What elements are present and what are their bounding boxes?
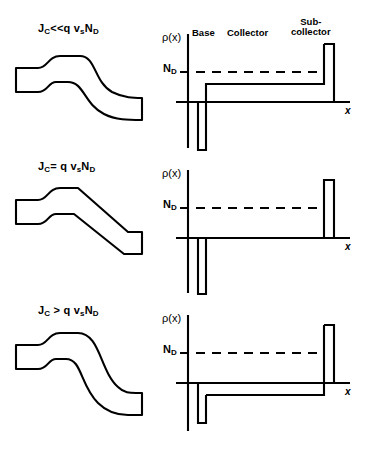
panel-case-equal: JC= q vsND ρ(x) ND x [0, 145, 368, 297]
condition-rhs-n-1: N [81, 160, 89, 172]
condition-rhs-n-0: N [85, 22, 93, 34]
condition-label-0: JC<<q vsND [38, 22, 99, 36]
condition-rhs-sub2-0: D [93, 27, 99, 36]
subcollector-spike-0 [324, 44, 334, 102]
collector-negative-plateau-2 [206, 325, 324, 395]
band-diagram-1 [8, 180, 158, 285]
condition-rhs-sub2-2: D [93, 309, 99, 318]
charge-profile-chart-2 [150, 311, 368, 447]
band-diagram-0 [8, 48, 158, 148]
condition-operator-1: = [50, 160, 57, 172]
condition-rhs-prefix-0: q v [64, 22, 81, 34]
condition-rhs-prefix-1: q v [60, 160, 77, 172]
charge-profile-chart-1 [150, 166, 368, 297]
condition-symbol-sub-2: C [44, 309, 50, 318]
subcollector-spike-2 [324, 325, 334, 383]
base-depletion-well-1 [198, 238, 206, 294]
panel-case-much-less-than: JC<<q vsND Base Collector Sub- collector… [0, 0, 368, 152]
panel-case-greater-than: JC > q vsND ρ(x) ND x [0, 290, 368, 442]
condition-operator-2: > [54, 304, 61, 316]
subcollector-spike-1 [324, 180, 334, 238]
condition-label-2: JC > q vsND [38, 304, 99, 318]
condition-rhs-n-2: N [85, 304, 93, 316]
charge-profile-chart-0 [150, 30, 368, 152]
condition-operator-0: << [50, 22, 63, 34]
condition-rhs-sub2-1: D [90, 165, 96, 174]
condition-rhs-prefix-2: q v [63, 304, 80, 316]
condition-label-1: JC= q vsND [38, 160, 96, 174]
band-diagram-2 [8, 325, 158, 430]
base-depletion-well-0 [198, 102, 206, 150]
base-depletion-well-2 [198, 383, 206, 423]
